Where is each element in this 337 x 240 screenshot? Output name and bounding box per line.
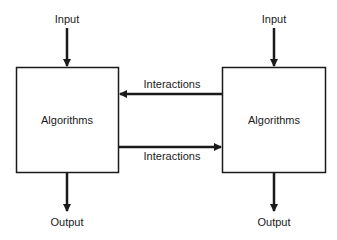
left-input-label: Input: [55, 13, 79, 25]
right-algorithms-label: Algorithms: [248, 114, 300, 126]
right-output-label: Output: [257, 216, 290, 228]
interactions-bottom-label: Interactions: [144, 150, 201, 162]
interactions-top-label: Interactions: [144, 78, 201, 90]
left-algorithms-label: Algorithms: [41, 114, 93, 126]
right-input-label: Input: [262, 13, 286, 25]
left-output-label: Output: [50, 216, 83, 228]
